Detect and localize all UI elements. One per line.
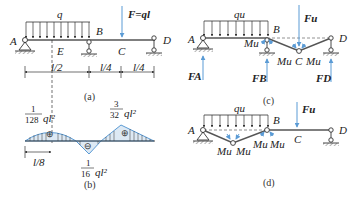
reaction-label-fd: FD xyxy=(315,72,331,84)
svg-text:ql²: ql² xyxy=(43,112,56,124)
force-label-fu-d: Fu xyxy=(301,103,315,115)
point-label-a-c: A xyxy=(187,33,195,45)
svg-text:16: 16 xyxy=(81,169,91,179)
svg-text:32: 32 xyxy=(110,110,119,120)
svg-text:128: 128 xyxy=(25,115,39,125)
plastic-hinge-c xyxy=(297,49,302,54)
distributed-load-a: q xyxy=(26,8,90,38)
roller-support-d xyxy=(146,36,162,56)
plastic-hinge-b xyxy=(265,128,270,133)
diagram-canvas: q F=ql A B xyxy=(0,0,361,204)
caption-c: (c) xyxy=(263,95,274,107)
point-label-b-c: B xyxy=(273,23,280,35)
sign-positive-left: ⊕ xyxy=(46,129,54,139)
load-label-qu-c: qu xyxy=(234,8,246,20)
point-label-b-d: B xyxy=(273,114,280,126)
svg-text:1: 1 xyxy=(86,158,91,168)
moment-label-b-right: Mu xyxy=(269,138,285,150)
reaction-label-fb: FB xyxy=(251,72,267,84)
distributed-load-d: qu xyxy=(204,102,268,130)
moment-label-c-left: Mu xyxy=(276,55,292,67)
sign-positive-right: ⊕ xyxy=(121,128,129,138)
point-label-c: C xyxy=(118,45,126,57)
dim-label-l8: l/8 xyxy=(33,156,45,168)
moment-label-b-left: Mu xyxy=(252,138,268,150)
svg-text:ql²: ql² xyxy=(124,107,137,119)
force-label-a: F=ql xyxy=(127,8,151,20)
point-label-c-c: C xyxy=(295,55,303,67)
dim-label-l4-1: l/4 xyxy=(100,61,112,73)
load-label-qu-d: qu xyxy=(234,102,246,114)
point-label-c-d: C xyxy=(294,133,302,145)
moment-label-b-c: Mu xyxy=(243,37,259,49)
point-label-a: A xyxy=(9,35,17,47)
caption-a: (a) xyxy=(84,91,95,103)
point-label-d: D xyxy=(162,34,171,46)
caption-b: (b) xyxy=(84,179,96,191)
point-label-d-c: D xyxy=(338,32,347,44)
point-label-b: B xyxy=(96,25,103,37)
point-label-a-d: A xyxy=(187,124,195,136)
moment-label-hinge-left: Mu xyxy=(216,145,232,157)
svg-text:1: 1 xyxy=(31,104,36,114)
sign-negative: ⊖ xyxy=(84,141,92,151)
label-max-pos-left: 1 128 ql² xyxy=(25,104,56,125)
svg-text:3: 3 xyxy=(114,99,119,109)
force-label-fu-c: Fu xyxy=(303,12,317,24)
figure-c: qu Fu xyxy=(187,5,347,107)
moment-label-c-right: Mu xyxy=(305,55,321,67)
caption-d: (d) xyxy=(263,177,275,189)
dim-label-l4-2: l/4 xyxy=(133,61,145,73)
label-max-neg: 1 16 ql² xyxy=(81,158,108,179)
reaction-label-fa: FA xyxy=(187,70,202,82)
label-max-pos-right: 3 32 ql² xyxy=(110,99,137,120)
load-label-q: q xyxy=(57,8,63,20)
svg-text:ql²: ql² xyxy=(95,166,108,178)
point-label-d-d: D xyxy=(338,124,347,136)
figure-b: ⊕ ⊖ ⊕ 1 128 ql² 3 32 ql² 1 16 ql² l/8 (b… xyxy=(25,99,155,191)
moment-label-hinge-right: Mu xyxy=(235,145,251,157)
distributed-load-c: qu xyxy=(204,8,268,36)
dim-label-l2: l/2 xyxy=(51,61,63,73)
figure-d: qu Fu xyxy=(187,102,347,189)
roller-support-b xyxy=(81,40,97,57)
roller-support-d-c xyxy=(323,36,339,56)
point-label-e: E xyxy=(56,45,64,57)
